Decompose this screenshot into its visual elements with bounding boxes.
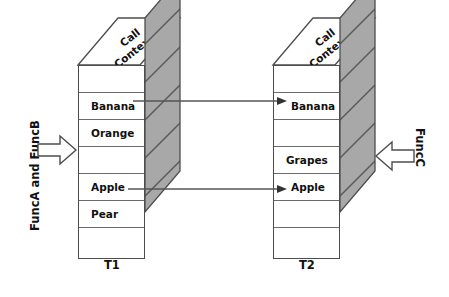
arrow-funca-funcb (38, 136, 88, 176)
arrow-funcc (376, 142, 426, 182)
connector-banana (133, 97, 287, 105)
connector-apple (128, 185, 287, 193)
diagram-canvas: Call Context 1 (0, 0, 449, 297)
